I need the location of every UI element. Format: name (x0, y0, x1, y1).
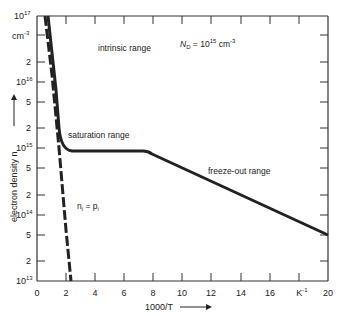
svg-text:1015: 1015 (16, 142, 33, 153)
y-ticks (37, 35, 328, 261)
label-nd: ND = 1015 cm-3 (180, 38, 236, 50)
svg-text:2: 2 (26, 123, 31, 133)
svg-text:14: 14 (236, 288, 246, 298)
svg-text:cm-3: cm-3 (12, 30, 30, 41)
svg-text:2: 2 (26, 57, 31, 67)
svg-text:0: 0 (34, 288, 39, 298)
y-tick-labels: 1017 cm-3 2 1016 5 2 1015 5 2 1014 5 2 1… (12, 10, 33, 286)
x-tick-labels: 0 2 4 6 8 10 12 14 16 K-1 20 (34, 287, 333, 298)
svg-text:8: 8 (150, 288, 155, 298)
svg-text:5: 5 (26, 230, 31, 240)
arrow-right-icon (206, 304, 212, 310)
plot-frame (37, 16, 328, 281)
svg-text:1016: 1016 (16, 76, 33, 87)
svg-text:6: 6 (121, 288, 126, 298)
svg-text:2: 2 (63, 288, 68, 298)
svg-text:16: 16 (265, 288, 275, 298)
label-ni-pi: ni = pi (77, 201, 99, 212)
svg-text:1000/T: 1000/T (145, 302, 174, 312)
label-saturation-range: saturation range (68, 130, 130, 140)
svg-text:1017: 1017 (14, 10, 31, 21)
svg-text:K-1: K-1 (296, 287, 308, 298)
svg-text:2: 2 (26, 190, 31, 200)
label-freezeout-range: freeze-out range (208, 166, 271, 176)
arrow-up-icon (11, 94, 17, 100)
svg-text:5: 5 (26, 163, 31, 173)
y-axis-title: electron density n (9, 94, 19, 222)
label-intrinsic-range: intrinsic range (98, 43, 151, 53)
svg-text:12: 12 (206, 288, 216, 298)
x-ticks (66, 16, 299, 281)
svg-text:5: 5 (26, 97, 31, 107)
svg-text:electron density n: electron density n (9, 151, 19, 222)
x-axis-title: 1000/T (145, 302, 212, 312)
svg-text:4: 4 (92, 288, 97, 298)
svg-text:10: 10 (177, 288, 187, 298)
chart-root: 1017 cm-3 2 1016 5 2 1015 5 2 1014 5 2 1… (0, 0, 338, 315)
svg-text:20: 20 (323, 288, 333, 298)
svg-text:2: 2 (26, 256, 31, 266)
svg-text:1013: 1013 (16, 275, 33, 286)
